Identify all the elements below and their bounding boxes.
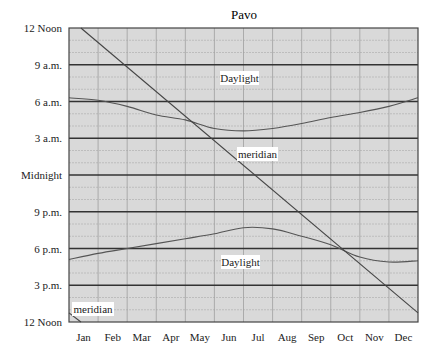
x-tick-label: Jun [221,331,237,343]
x-tick-label: Aug [278,331,297,343]
y-axis-ticks: 12 Noon9 a.m.6 a.m.3 a.m.Midnight9 p.m.6… [21,22,62,328]
x-axis-ticks: JanFebMarAprMayJunJulAugSepOctNovDec [76,331,412,343]
daylight-label: Daylight [220,72,259,84]
y-tick-label: 9 a.m. [35,59,62,71]
y-tick-label: 12 Noon [24,316,63,328]
x-tick-label: Oct [337,331,353,343]
y-tick-label: 12 Noon [24,22,63,34]
y-tick-label: Midnight [21,169,62,181]
chart-title: Pavo [231,7,257,22]
y-tick-label: 6 a.m. [35,96,62,108]
x-tick-label: Feb [104,331,121,343]
x-tick-label: May [190,331,211,343]
y-tick-label: 3 p.m. [34,279,62,291]
y-tick-label: 3 a.m. [35,132,62,144]
x-tick-label: Apr [162,331,179,343]
meridian-label: meridian [238,148,278,160]
x-tick-label: Mar [133,331,152,343]
x-tick-label: Nov [365,331,384,343]
y-tick-label: 9 p.m. [34,206,62,218]
daylight-label: Daylight [221,256,260,268]
x-tick-label: Jan [76,331,91,343]
x-tick-label: Sep [308,331,325,343]
x-tick-label: Jul [252,331,265,343]
y-tick-label: 6 p.m. [34,243,62,255]
x-tick-label: Dec [395,331,413,343]
meridian-label: meridian [73,303,113,315]
chart: Pavo DaylightmeridianDaylightmeridian 12… [0,0,439,359]
